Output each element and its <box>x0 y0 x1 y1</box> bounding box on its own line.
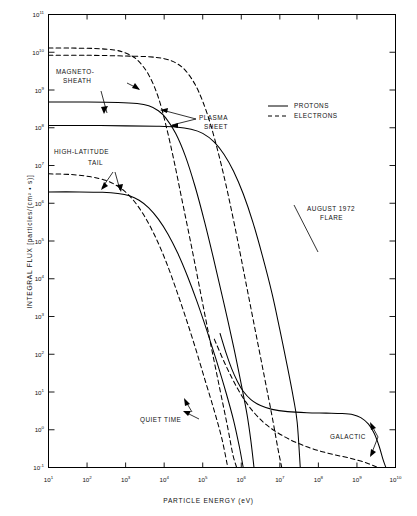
annotation-magnetosheath-line2: SHEATH <box>56 77 94 86</box>
y-tick-label-1e10: 1010 <box>8 48 44 56</box>
data-curves <box>49 48 386 467</box>
annotation-flare-line2: FLARE <box>307 214 355 223</box>
y-tick-label-1e4: 104 <box>8 274 44 282</box>
annotation-flare-line1: AUGUST 1972 <box>307 205 355 214</box>
arrowhead-tail-electrons <box>101 182 108 190</box>
y-tick-label-1e7: 107 <box>8 161 44 169</box>
annotation-plasma-sheet: PLASMA SHEET <box>199 114 228 131</box>
y-tick-label-1e6: 106 <box>8 199 44 207</box>
annotation-august-1972-flare: AUGUST 1972 FLARE <box>307 205 355 222</box>
arrowhead-plasma-sheet-electrons <box>160 108 168 113</box>
y-tick-label-1e0: 100 <box>8 425 44 433</box>
curve-high-latitude-tail-protons <box>49 192 244 468</box>
annotation-quiet-time-line1: QUIET TIME <box>140 416 181 425</box>
x-tick-label-1e5: 105 <box>185 475 221 483</box>
y-tick-label-1e1: 101 <box>8 388 44 396</box>
x-tick-label-1e6: 106 <box>223 475 259 483</box>
legend-label-protons: PROTONS <box>294 102 329 109</box>
annotation-high-latitude-tail: HIGH-LATITUDE TAIL <box>54 148 109 167</box>
x-tick-label-1e3: 103 <box>108 475 144 483</box>
y-tick-label-1e-1: 10-1 <box>8 463 44 471</box>
legend-marks <box>268 106 288 116</box>
legend-label-electrons: ELECTRONS <box>294 112 338 119</box>
y-tick-label-1e5: 105 <box>8 237 44 245</box>
annotation-leader-lines <box>101 83 378 457</box>
x-tick-label-1e9: 109 <box>339 475 375 483</box>
x-tick-label-1e8: 108 <box>300 475 336 483</box>
annotation-galactic: GALACTIC <box>330 433 366 442</box>
annotation-plasma-sheet-line2: SHEET <box>199 123 228 132</box>
annotation-magnetosheath: MAGNETO- SHEATH <box>56 68 94 85</box>
arrowhead-galactic-protons <box>370 422 376 430</box>
x-tick-label-1e4: 104 <box>146 475 182 483</box>
x-tick-label-1e7: 107 <box>262 475 298 483</box>
y-tick-label-1e11: 1011 <box>8 10 44 18</box>
annotation-tail-line2: TAIL <box>54 157 109 168</box>
arrowhead-galactic-electrons <box>370 449 376 457</box>
y-tick-label-1e8: 108 <box>8 123 44 131</box>
curve-high-latitude-tail-electrons <box>49 174 228 468</box>
arrowhead-quiet-time-protons <box>184 398 190 406</box>
curve-quiet-time-galactic-electrons <box>214 339 378 467</box>
arrowhead-tail-protons <box>117 184 123 192</box>
arrowhead-magnetosheath-electrons <box>132 83 140 90</box>
x-axis-title: PARTICLE ENERGY (eV) <box>0 497 417 504</box>
x-tick-label-1e2: 102 <box>69 475 105 483</box>
arrowhead-quiet-time-electrons <box>183 411 191 416</box>
annotation-plasma-sheet-line1: PLASMA <box>199 114 228 123</box>
y-tick-label-1e9: 109 <box>8 86 44 94</box>
annotation-quiet-time: QUIET TIME <box>140 416 181 425</box>
x-tick-label-1e1: 101 <box>31 475 67 483</box>
annotation-tail-line1: HIGH-LATITUDE <box>54 148 109 157</box>
y-tick-label-1e2: 102 <box>8 350 44 358</box>
annotation-magnetosheath-line1: MAGNETO- <box>56 68 94 77</box>
figure-container: INTEGRAL FLUX [particles/(cm² • s)] PART… <box>0 0 417 516</box>
x-tick-label-1e10: 1010 <box>378 475 414 483</box>
y-tick-label-1e3: 103 <box>8 312 44 320</box>
curve-magnetosheath-electrons <box>49 48 237 467</box>
annotation-galactic-line1: GALACTIC <box>330 433 366 442</box>
